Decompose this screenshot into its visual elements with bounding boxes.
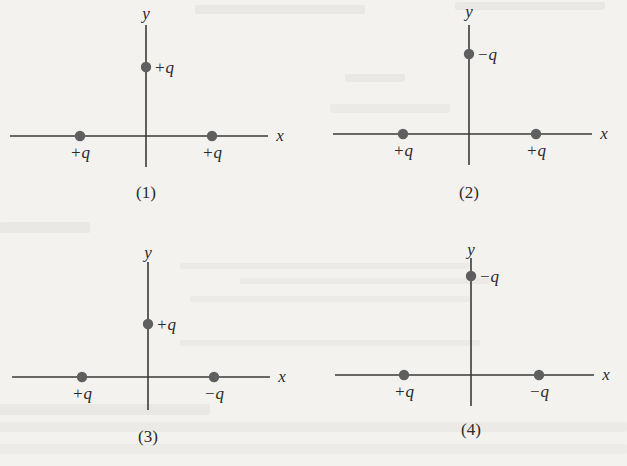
panel-caption: (4) <box>461 420 481 439</box>
panel-caption: (3) <box>138 427 158 446</box>
charge-label: +q <box>70 143 90 162</box>
charge-label: −q <box>529 382 549 401</box>
charge-label: +q <box>72 384 92 403</box>
panel-caption: (2) <box>459 183 479 202</box>
figure-canvas: xy+q+q+q(1)xy−q+q+q(2)xy+q+q−q(3)xy−q+q−… <box>0 0 627 466</box>
y-axis-label: y <box>465 240 475 259</box>
charge-dot-icon <box>398 129 408 139</box>
x-axis-label: x <box>601 365 610 384</box>
x-axis-label: x <box>599 124 608 143</box>
charge-dot-icon <box>207 131 217 141</box>
charge-dot-icon <box>77 372 87 382</box>
charge-dot-icon <box>534 370 544 380</box>
panel-caption: (1) <box>136 183 156 202</box>
panels-layer: xy+q+q+q(1)xy−q+q+q(2)xy+q+q−q(3)xy−q+q−… <box>10 2 610 446</box>
charge-configurations-figure: xy+q+q+q(1)xy−q+q+q(2)xy+q+q−q(3)xy−q+q−… <box>0 0 627 466</box>
charge-dot-icon <box>75 131 85 141</box>
y-axis-label: y <box>142 243 152 262</box>
charge-label: +q <box>393 141 413 160</box>
panel-2: xy−q+q+q(2) <box>333 2 608 202</box>
panel-1: xy+q+q+q(1) <box>10 4 284 202</box>
y-axis-label: y <box>140 4 150 23</box>
x-axis-label: x <box>275 126 284 145</box>
charge-label: +q <box>154 58 174 77</box>
charge-label: −q <box>477 45 497 64</box>
charge-label: −q <box>204 384 224 403</box>
charge-dot-icon <box>464 49 474 59</box>
charge-label: +q <box>156 315 176 334</box>
charge-label: −q <box>479 267 499 286</box>
charge-dot-icon <box>466 271 476 281</box>
charge-label: +q <box>202 143 222 162</box>
y-axis-label: y <box>463 2 473 21</box>
x-axis-label: x <box>277 367 286 386</box>
charge-dot-icon <box>399 370 409 380</box>
charge-dot-icon <box>531 129 541 139</box>
charge-dot-icon <box>143 319 153 329</box>
charge-label: +q <box>394 382 414 401</box>
panel-4: xy−q+q−q(4) <box>335 240 610 439</box>
charge-dot-icon <box>141 62 151 72</box>
charge-label: +q <box>526 141 546 160</box>
charge-dot-icon <box>209 372 219 382</box>
